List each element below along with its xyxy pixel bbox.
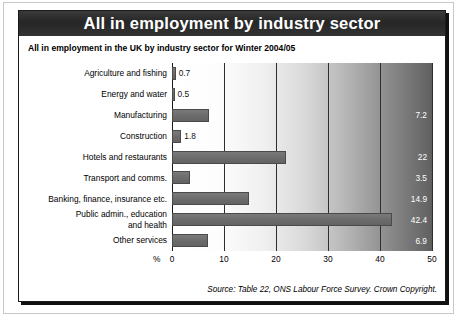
category-label: Hotels and restaurants	[83, 152, 167, 163]
bar-value-label: 3.5	[415, 174, 427, 182]
bar	[172, 171, 190, 184]
bar-value-label: 1.8	[184, 132, 196, 140]
bar	[172, 67, 176, 80]
bar-row: 3.5	[172, 171, 431, 184]
x-tick-label-0: 0	[170, 254, 175, 264]
bar-row: 42.4	[172, 213, 431, 226]
bar-value-label: 0.5	[178, 90, 190, 98]
bar	[172, 192, 249, 205]
plot-area: 0.70.57.21.8223.514.942.46.9	[172, 63, 432, 251]
chart-card: All in employment by industry sector All…	[18, 10, 446, 302]
x-tick-label-20: 20	[271, 254, 280, 264]
source-note: Source: Table 22, ONS Labour Force Surve…	[207, 285, 437, 294]
bar-row: 1.8	[172, 130, 431, 143]
bar-value-label: 22	[418, 153, 427, 161]
category-label: Banking, finance, insurance etc.	[48, 194, 167, 205]
x-axis-unit-label: %	[153, 254, 160, 264]
bar	[172, 234, 208, 247]
x-tick-label-10: 10	[219, 254, 228, 264]
category-label: Energy and water	[101, 89, 167, 100]
chart-subtitle: All in employment in the UK by industry …	[28, 43, 295, 53]
category-label: Public admin., education and health	[76, 209, 167, 230]
bar	[172, 88, 175, 101]
bar-value-label: 0.7	[179, 69, 191, 77]
category-label: Construction	[120, 131, 167, 142]
title-bar: All in employment by industry sector	[19, 11, 445, 36]
x-axis: % 01020304050	[19, 251, 447, 267]
x-tick-label-40: 40	[375, 254, 384, 264]
bar-value-label: 42.4	[411, 216, 427, 224]
gridline-50	[432, 63, 433, 251]
page-title: All in employment by industry sector	[84, 14, 381, 33]
bar-row: 14.9	[172, 192, 431, 205]
bar	[172, 213, 392, 226]
bar-row: 0.5	[172, 88, 431, 101]
bar-value-label: 7.2	[415, 111, 427, 119]
category-label: Other services	[113, 235, 167, 246]
category-label-column: Agriculture and fishingEnergy and waterM…	[19, 63, 171, 251]
category-label: Transport and comms.	[84, 173, 167, 184]
bar	[172, 151, 286, 164]
bar-row: 0.7	[172, 67, 431, 80]
category-label: Manufacturing	[114, 110, 167, 121]
bar-row: 22	[172, 151, 431, 164]
x-tick-label-50: 50	[427, 254, 436, 264]
bar	[172, 109, 209, 122]
bar-row: 6.9	[172, 234, 431, 247]
bar-row: 7.2	[172, 109, 431, 122]
bar-chart: Agriculture and fishingEnergy and waterM…	[19, 63, 447, 273]
bar-value-label: 14.9	[411, 195, 427, 203]
bar	[172, 130, 181, 143]
outer-frame: All in employment by industry sector All…	[3, 2, 454, 314]
bar-value-label: 6.9	[415, 236, 427, 244]
x-tick-label-30: 30	[323, 254, 332, 264]
category-label: Agriculture and fishing	[84, 68, 167, 79]
